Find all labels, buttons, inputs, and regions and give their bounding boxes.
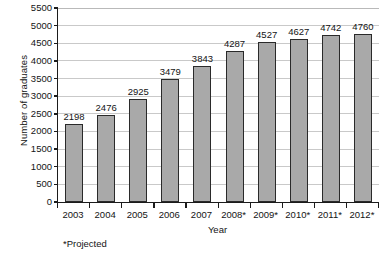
x-axis-tickmarks [57, 203, 379, 208]
bar-value-label: 2925 [118, 87, 158, 97]
bar [226, 51, 244, 202]
x-axis-tickmark [89, 203, 90, 208]
x-axis-tickmark [346, 203, 347, 208]
x-axis-tickmark [57, 203, 58, 208]
bar-value-label: 3843 [182, 54, 222, 64]
plot-area: 2198247629253479384342874527462747424760 [57, 8, 379, 203]
bar [161, 79, 179, 202]
x-axis-tick-label: 2004 [89, 209, 121, 221]
bar [258, 42, 276, 202]
x-axis-tickmark [218, 203, 219, 208]
bar-value-label: 2476 [86, 103, 126, 113]
x-axis-tickmark [185, 203, 186, 208]
x-axis-tick-label: 2010* [282, 209, 314, 221]
y-axis-tick-label: 1500 [16, 144, 52, 154]
x-axis-tick-label: 2007 [185, 209, 217, 221]
y-axis-tick-label: 2000 [16, 126, 52, 136]
x-axis-tick-label: 2006 [153, 209, 185, 221]
bar [65, 124, 83, 202]
x-axis-tick-label: 2009* [250, 209, 282, 221]
y-axis-tick-label: 2500 [16, 109, 52, 119]
x-axis-tick-label: 2005 [121, 209, 153, 221]
bars-layer: 2198247629253479384342874527462747424760 [58, 8, 379, 202]
y-axis-tick-label: 4500 [16, 38, 52, 48]
bar [129, 99, 147, 202]
y-axis-tick-label: 5500 [16, 3, 52, 13]
x-axis-tick-label: 2012* [346, 209, 378, 221]
bar [354, 34, 372, 202]
x-axis-tick-label: 2003 [57, 209, 89, 221]
y-axis-tick-label: 1000 [16, 162, 52, 172]
x-axis-title: Year [57, 224, 378, 235]
x-axis-tickmark [378, 203, 379, 208]
bar-chart: Number of graduates 05001000150020002500… [0, 0, 384, 255]
footnote-projected: *Projected [63, 238, 107, 249]
bar [290, 39, 308, 202]
x-axis-tickmark [282, 203, 283, 208]
x-axis-tickmark [121, 203, 122, 208]
x-axis-tick-labels: 200320042005200620072008*2009*2010*2011*… [57, 209, 378, 223]
x-axis-tickmark [250, 203, 251, 208]
y-axis-tick-label: 5000 [16, 21, 52, 31]
bar [193, 66, 211, 202]
bar-value-label: 3479 [150, 67, 190, 77]
x-axis-tick-label: 2008* [218, 209, 250, 221]
x-axis-tickmark [314, 203, 315, 208]
y-axis-tick-label: 500 [16, 179, 52, 189]
y-axis-tick-label: 0 [16, 197, 52, 207]
bar [322, 35, 340, 202]
x-axis-tickmark [153, 203, 154, 208]
bar-value-label: 4760 [343, 22, 383, 32]
y-axis-tick-label: 4000 [16, 56, 52, 66]
bar-value-label: 2198 [54, 112, 94, 122]
y-axis-tick-label: 3000 [16, 91, 52, 101]
y-axis-tick-labels: 0500100015002000250030003500400045005000… [16, 0, 52, 210]
x-axis-tick-label: 2011* [314, 209, 346, 221]
bar [97, 115, 115, 202]
y-axis-tick-label: 3500 [16, 74, 52, 84]
